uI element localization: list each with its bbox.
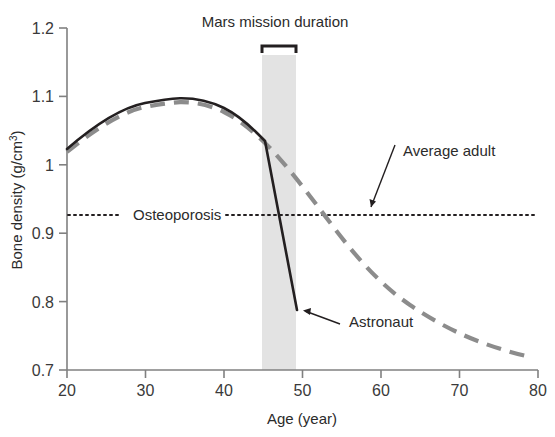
y-axis-title-close: ) <box>8 131 25 136</box>
average-adult-label: Average adult <box>403 142 496 159</box>
y-tick-label-1: 1 <box>45 157 54 174</box>
average-adult-curve <box>67 102 530 357</box>
y-tick-label-1.2: 1.2 <box>32 20 54 37</box>
x-tick-label-80: 80 <box>529 382 547 399</box>
osteoporosis-label: Osteoporosis <box>133 206 221 223</box>
average-adult-annotation: Average adult <box>370 142 497 207</box>
svg-text:Bone density (g/cm3): Bone density (g/cm3) <box>8 131 25 270</box>
x-axis-title: Age (year) <box>267 410 337 427</box>
x-tick-label-70: 70 <box>451 382 469 399</box>
chart-canvas: Mars mission duration 1.2 1.1 1 0.9 0.8 … <box>0 0 555 437</box>
mars-mission-bracket <box>262 46 296 53</box>
y-tick-label-1.1: 1.1 <box>32 88 54 105</box>
astronaut-label: Astronaut <box>349 313 414 330</box>
y-tick-label-0.8: 0.8 <box>32 294 54 311</box>
x-tick-label-20: 20 <box>58 382 76 399</box>
x-tick-label-50: 50 <box>294 382 312 399</box>
x-tick-label-60: 60 <box>372 382 390 399</box>
bone-density-chart: Mars mission duration 1.2 1.1 1 0.9 0.8 … <box>0 0 555 437</box>
y-tick-label-0.7: 0.7 <box>32 362 54 379</box>
x-tick-label-30: 30 <box>137 382 155 399</box>
x-axis-ticks <box>67 370 538 378</box>
y-axis-title-main: Bone density (g/cm <box>8 141 25 269</box>
y-axis-title: Bone density (g/cm3) <box>8 131 25 270</box>
astronaut-annotation: Astronaut <box>303 308 414 330</box>
y-tick-label-0.9: 0.9 <box>32 225 54 242</box>
y-axis-ticks <box>59 28 67 370</box>
x-tick-label-40: 40 <box>215 382 233 399</box>
mars-mission-duration-label: Mars mission duration <box>202 13 349 30</box>
